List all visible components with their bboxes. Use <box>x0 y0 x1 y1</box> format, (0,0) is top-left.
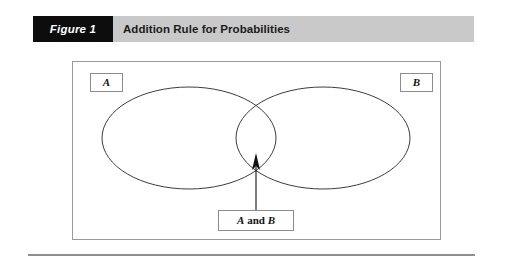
figure-number-box: Figure 1 <box>33 16 113 42</box>
footer-divider <box>28 254 475 256</box>
intersection-label-and: and <box>247 214 265 226</box>
intersection-label-b: B <box>268 214 275 226</box>
set-label-a: A <box>103 77 110 88</box>
set-label-b: B <box>413 77 420 88</box>
intersection-label-box: A and B <box>218 210 294 231</box>
set-label-box-a: A <box>90 73 123 92</box>
figure-number-label: Figure 1 <box>50 23 96 35</box>
figure-title-container: Addition Rule for Probabilities <box>113 16 474 42</box>
intersection-label: A and B <box>237 215 275 226</box>
set-label-box-b: B <box>400 73 433 92</box>
figure-title: Addition Rule for Probabilities <box>123 23 290 35</box>
figure-header-band: Figure 1 Addition Rule for Probabilities <box>33 16 474 42</box>
